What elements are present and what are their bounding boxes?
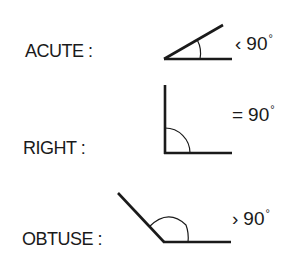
degree-symbol: ° bbox=[270, 103, 274, 115]
acute-measure: ‹90° bbox=[235, 33, 273, 53]
acute-upper-ray bbox=[164, 25, 223, 59]
degree-symbol: ° bbox=[268, 32, 272, 44]
degree-symbol: ° bbox=[265, 207, 269, 219]
right-angle-arc bbox=[165, 128, 190, 153]
obtuse-measure: ›90° bbox=[232, 208, 270, 228]
right-value: 90 bbox=[248, 104, 269, 125]
obtuse-label: OBTUSE : bbox=[22, 230, 102, 248]
less-than-symbol: ‹ bbox=[235, 34, 241, 53]
obtuse-angle-figure bbox=[118, 193, 231, 242]
acute-angle-figure bbox=[164, 25, 232, 59]
obtuse-upper-ray bbox=[118, 193, 164, 242]
acute-angle-arc bbox=[198, 41, 201, 60]
equals-symbol: = bbox=[232, 105, 243, 124]
right-measure: =90° bbox=[232, 104, 275, 124]
obtuse-angle-arc bbox=[149, 217, 188, 242]
acute-label: ACUTE : bbox=[25, 42, 93, 60]
greater-than-symbol: › bbox=[232, 209, 238, 228]
right-label: RIGHT : bbox=[23, 139, 85, 157]
right-angle-figure bbox=[164, 85, 232, 154]
acute-value: 90 bbox=[246, 33, 267, 54]
obtuse-value: 90 bbox=[243, 208, 264, 229]
